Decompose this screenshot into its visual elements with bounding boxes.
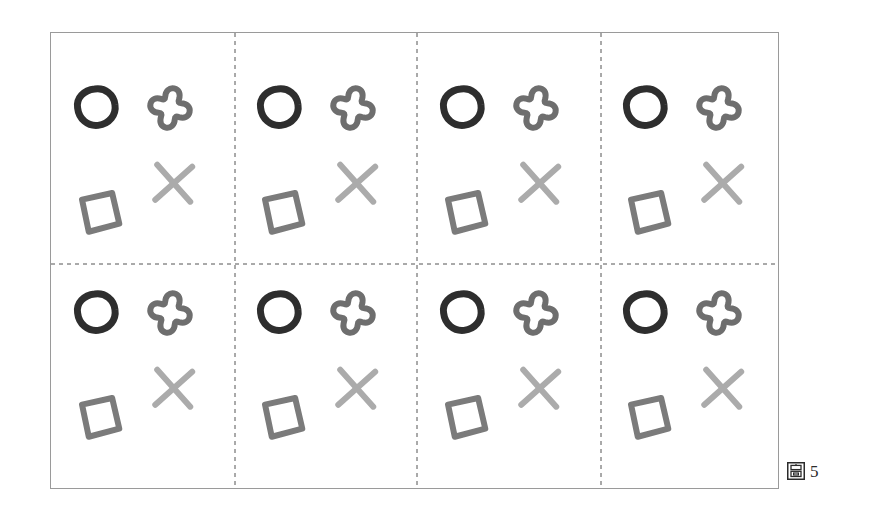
figure-number: 5: [810, 463, 819, 480]
figure-caption: 5: [787, 462, 819, 480]
pattern-fill: [51, 33, 779, 489]
figure-panel: [50, 32, 779, 489]
figure-label-cjk-glyph: [787, 462, 805, 480]
shape-pattern-canvas: [51, 33, 779, 489]
